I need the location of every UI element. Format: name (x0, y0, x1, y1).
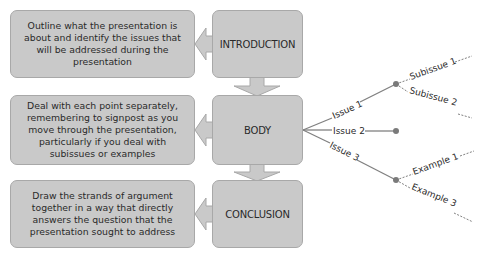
subissue-2-label: Subissue 2 (408, 85, 458, 107)
arrow-down-icon (234, 164, 280, 181)
left-arrows (195, 28, 213, 230)
example-1-label: Example 1 (411, 151, 459, 177)
arrow-left-icon (195, 114, 213, 146)
issue-1-label: Issue 1 (331, 99, 364, 121)
example-3-label: Example 3 (410, 182, 458, 209)
stage-body: BODY (212, 95, 303, 165)
arrow-down-icon (234, 77, 280, 96)
issue-3-label: Issue 3 (328, 140, 361, 163)
stage-conclusion: CONCLUSION (212, 180, 303, 248)
body-description: Deal with each point separately, remembe… (10, 95, 195, 165)
introduction-description: Outline what the presentation is about a… (10, 10, 195, 78)
node-dot-icon (393, 81, 399, 87)
subissue-1-label: Subissue 1 (408, 56, 457, 82)
stage-introduction: INTRODUCTION (212, 10, 303, 78)
arrow-left-icon (195, 198, 213, 230)
tree-nodes (393, 81, 399, 183)
arrow-left-icon (195, 28, 213, 60)
issue-2-label: Issue 2 (333, 126, 365, 136)
node-dot-icon (393, 177, 399, 183)
conclusion-description: Draw the strands of argument together in… (10, 180, 195, 248)
node-dot-icon (393, 128, 399, 134)
